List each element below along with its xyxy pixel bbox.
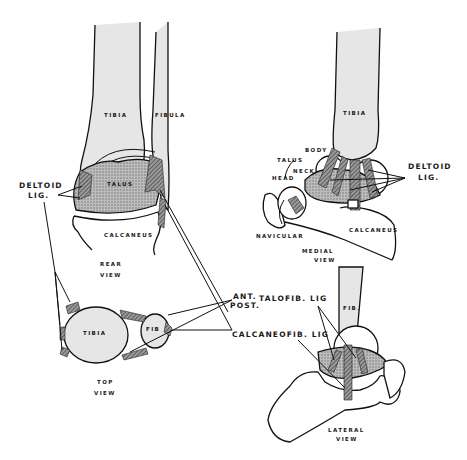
rear-view-caption-2: VIEW xyxy=(100,272,122,278)
rear-tibia-label: TIBIA xyxy=(104,112,127,118)
rear-view: TIBIA FIBULA TALUS CALCANEUS REAR VIEW xyxy=(73,22,186,278)
talofib-label: TALOFIB. LIG xyxy=(259,294,327,303)
medial-head-label: HEAD xyxy=(272,175,295,181)
lateral-calcaneofibular-ligament xyxy=(344,345,352,400)
lateral-view-caption-1: LATERAL xyxy=(328,427,365,433)
medial-calcaneus-label: CALCANEUS xyxy=(349,227,398,233)
rear-view-caption-1: REAR xyxy=(100,261,122,267)
lateral-fibula-label: FIB. xyxy=(343,305,361,311)
left-deltoid-label-1: DELTOID xyxy=(19,181,63,190)
ant-label: ANT. xyxy=(233,292,257,301)
right-deltoid-label-1: DELTOID xyxy=(408,162,452,171)
top-tibia-label: TIBIA xyxy=(83,330,106,336)
calcaneofib-label: CALCANEOFIB. LIG xyxy=(232,330,329,339)
top-view-caption-1: TOP xyxy=(97,379,114,385)
post-label: POST. xyxy=(230,301,260,310)
medial-tibia-bone xyxy=(333,28,380,160)
medial-body-label: BODY xyxy=(305,147,328,153)
medial-view: TIBIA BODY TALUS NECK HEAD NAVICULAR CAL… xyxy=(256,28,398,263)
left-deltoid-label-2: LIG. xyxy=(28,191,49,200)
rear-talus-label: TALUS xyxy=(107,181,133,187)
top-view: TIBIA FIB TOP VIEW xyxy=(60,302,172,396)
medial-tibia-label: TIBIA xyxy=(343,110,366,116)
top-view-caption-2: VIEW xyxy=(94,390,116,396)
medial-view-caption-2: VIEW xyxy=(314,257,336,263)
lateral-view-caption-2: VIEW xyxy=(336,436,358,442)
medial-view-caption-1: MEDIAL xyxy=(302,248,334,254)
top-fibula-label: FIB xyxy=(146,326,160,332)
right-deltoid-label-2: LIG. xyxy=(418,173,439,182)
rear-calcaneus-label: CALCANEUS xyxy=(104,232,153,238)
ankle-ligament-diagram: TIBIA FIBULA TALUS CALCANEUS REAR VIEW T… xyxy=(0,0,467,460)
medial-neck-label: NECK xyxy=(293,168,315,174)
medial-navicular-label: NAVICULAR xyxy=(256,233,304,239)
medial-talus-label: TALUS xyxy=(277,157,303,163)
rear-fibula-label: FIBULA xyxy=(155,112,186,118)
